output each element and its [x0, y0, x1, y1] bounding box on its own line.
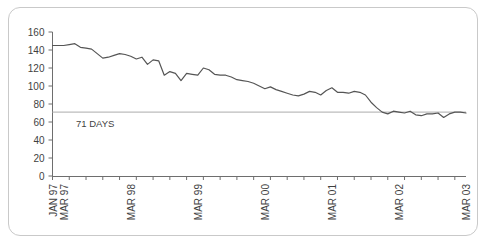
x-tick-label: MAR 99: [193, 184, 204, 221]
y-tick-label: 100: [28, 81, 45, 92]
x-tick-label: MAR 98: [126, 184, 137, 221]
y-tick-label: 120: [28, 63, 45, 74]
y-tick-label: 40: [33, 135, 45, 146]
y-tick-label: 60: [33, 117, 45, 128]
x-tick-label: MAR 02: [394, 184, 405, 221]
y-axis-tick-labels: 020406080100120140160: [28, 27, 45, 182]
reference-line-group: 71 DAYS: [53, 112, 467, 129]
y-tick-label: 0: [39, 171, 45, 182]
y-tick-label: 140: [28, 45, 45, 56]
series-line-days: [53, 44, 467, 118]
y-tick-label: 20: [33, 153, 45, 164]
x-tick-label: MAR 00: [260, 184, 271, 221]
x-tick-label: MAR 03: [461, 184, 472, 221]
x-axis: JAN 97MAR 97MAR 98MAR 99MAR 00MAR 01MAR …: [48, 176, 473, 220]
x-axis-tick-labels: JAN 97MAR 97MAR 98MAR 99MAR 00MAR 01MAR …: [48, 184, 473, 221]
line-chart: 020406080100120140160 71 DAYS JAN 97MAR …: [0, 0, 489, 245]
x-tick-label: MAR 01: [327, 184, 338, 221]
x-tick-label: JAN 97: [48, 184, 59, 217]
y-axis: 020406080100120140160: [28, 27, 53, 182]
y-tick-label: 160: [28, 27, 45, 38]
y-tick-label: 80: [33, 99, 45, 110]
y-axis-ticks: [49, 32, 53, 176]
x-tick-label: MAR 97: [59, 184, 70, 221]
annotation-71-days: 71 DAYS: [76, 118, 114, 129]
